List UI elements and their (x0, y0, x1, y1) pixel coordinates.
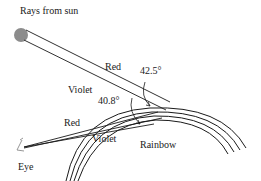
label-violet-bottom: Violet (92, 134, 116, 144)
label-rays-from-sun: Rays from sun (20, 6, 78, 16)
label-red-bottom: Red (64, 118, 80, 128)
rainbow-diagram: Rays from sun Red Violet 42.5° 40.8° Red… (0, 0, 261, 181)
eye-icon (17, 138, 24, 151)
label-eye: Eye (18, 162, 34, 172)
label-violet-top: Violet (68, 85, 92, 95)
label-angle-red: 42.5° (140, 66, 162, 76)
diagram-canvas (0, 0, 261, 181)
label-rainbow: Rainbow (140, 140, 176, 150)
sun-icon (14, 28, 28, 42)
label-red-top: Red (105, 62, 121, 72)
label-angle-violet: 40.8° (98, 96, 120, 106)
